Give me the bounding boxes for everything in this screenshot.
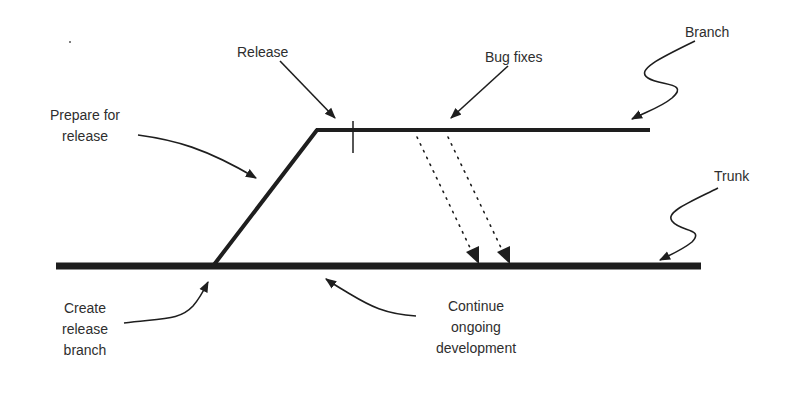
diagram-canvas bbox=[0, 0, 798, 400]
continue-ongoing-development-label: Continue ongoing development bbox=[420, 296, 532, 359]
prepare-release-pointer-arrow bbox=[138, 135, 256, 178]
release-branch-diagram: Release Bug fixes Branch Trunk Prepare f… bbox=[0, 0, 798, 400]
continue-dev-pointer-arrow bbox=[326, 279, 416, 316]
continue-label-line-1: Continue bbox=[420, 296, 532, 317]
continue-label-line-2: ongoing bbox=[420, 317, 532, 338]
create-release-branch-label: Create release branch bbox=[54, 298, 116, 361]
create-branch-pointer-arrow bbox=[124, 282, 208, 323]
merge-arrow-1 bbox=[417, 137, 474, 256]
prepare-for-release-label: Prepare for release bbox=[40, 105, 130, 147]
create-label-line-3: branch bbox=[54, 340, 116, 361]
merge-arrowhead-2 bbox=[497, 246, 510, 264]
branch-label: Branch bbox=[685, 22, 729, 43]
branch-diagonal-line bbox=[213, 130, 317, 266]
trunk-squiggle-arrow bbox=[660, 188, 718, 260]
prepare-label-line-1: Prepare for bbox=[40, 105, 130, 126]
prepare-label-line-2: release bbox=[40, 126, 130, 147]
trunk-label: Trunk bbox=[714, 166, 749, 187]
bug-fixes-label: Bug fixes bbox=[485, 47, 543, 68]
branch-squiggle-arrow bbox=[632, 41, 695, 119]
bug-fixes-pointer-arrow bbox=[451, 66, 508, 118]
scan-speck bbox=[69, 41, 71, 43]
release-pointer-arrow bbox=[280, 61, 335, 118]
continue-label-line-3: development bbox=[420, 338, 532, 359]
merge-arrowhead-1 bbox=[466, 246, 479, 264]
release-label: Release bbox=[237, 42, 288, 63]
create-label-line-1: Create bbox=[54, 298, 116, 319]
create-label-line-2: release bbox=[54, 319, 116, 340]
merge-arrow-2 bbox=[448, 137, 505, 256]
